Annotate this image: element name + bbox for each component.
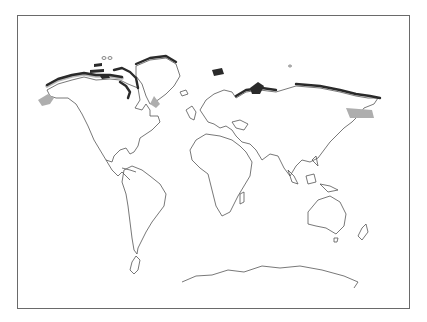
eurasia (186, 86, 378, 176)
africa (190, 134, 252, 216)
antarctica (182, 266, 358, 288)
north-america (47, 77, 160, 180)
south-america (122, 166, 166, 274)
greenland (136, 58, 188, 104)
world-map (0, 0, 427, 322)
australia (308, 196, 368, 242)
arctic-highlights (38, 56, 380, 118)
southeast-asia-islands (288, 156, 338, 192)
